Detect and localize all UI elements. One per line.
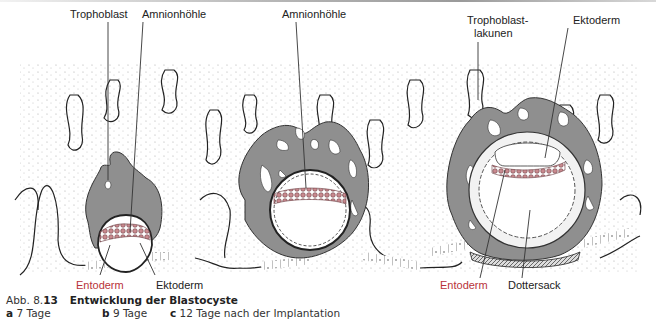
label-amnionhoehle-b: Amnionhöhle	[282, 8, 346, 20]
caption-panel-c: c 12 Tage nach der Implantation	[170, 307, 340, 320]
label-entoderm-a: Entoderm	[76, 279, 124, 291]
caption-panels-row: a 7 Tage b 9 Tage c 12 Tage nach der Imp…	[6, 307, 340, 320]
caption-panel-a: a 7 Tage	[6, 307, 102, 320]
label-dottersack: Dottersack	[508, 279, 561, 291]
label-entoderm-c: Entoderm	[440, 279, 488, 291]
label-amnionhoehle-a: Amnionhöhle	[142, 8, 206, 20]
panel-c-blastocyst	[447, 98, 602, 268]
caption-number: 13	[43, 294, 58, 307]
caption-title: Entwicklung der Blastocyste	[70, 294, 238, 307]
label-ektoderm-c: Ektoderm	[573, 14, 620, 26]
blastocyst-illustration	[0, 0, 656, 324]
label-trophoblast-a: Trophoblast	[70, 8, 128, 20]
caption-prefix: Abb. 8.	[6, 294, 43, 307]
caption-panel-b: b 9 Tage	[102, 307, 170, 320]
label-ektoderm-a: Ektoderm	[156, 279, 203, 291]
figure-caption: Abb. 8.13 Entwicklung der Blastocyste a …	[6, 294, 340, 320]
label-trophoblastlakunen-line2: lakunen	[474, 27, 513, 39]
label-trophoblastlakunen-line1: Trophoblast-	[467, 14, 528, 26]
caption-title-row: Abb. 8.13 Entwicklung der Blastocyste	[6, 294, 340, 307]
